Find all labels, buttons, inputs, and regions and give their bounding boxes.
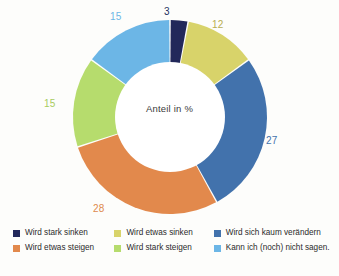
value-label-wird-etwas-steigen: 28: [93, 203, 105, 214]
legend-item-label: Kann ich (noch) nicht sagen.: [226, 243, 330, 253]
legend-column: Wird stark sinkenWird etwas steigen: [13, 228, 114, 253]
legend-column: Wird sich kaum verändernKann ich (noch) …: [214, 228, 339, 253]
legend-item[interactable]: Wird stark steigen: [114, 243, 213, 253]
donut-chart: Anteil in % 3 12 27 28 15 15: [0, 0, 339, 220]
value-label-wird-etwas-sinken: 12: [212, 19, 224, 30]
legend-swatch-icon: [13, 230, 20, 237]
legend-item[interactable]: Wird sich kaum verändern: [214, 228, 339, 238]
legend-swatch-icon: [13, 245, 20, 252]
legend-swatch-icon: [114, 230, 121, 237]
chart-legend: Wird stark sinkenWird etwas steigenWird …: [0, 228, 339, 272]
legend-swatch-icon: [214, 245, 221, 252]
legend-item-label: Wird stark steigen: [126, 243, 192, 253]
legend-item-label: Wird sich kaum verändern: [226, 228, 321, 238]
legend-item[interactable]: Wird etwas steigen: [13, 243, 114, 253]
legend-swatch-icon: [214, 230, 221, 237]
legend-item-label: Wird etwas sinken: [126, 228, 192, 238]
legend-item[interactable]: Wird stark sinken: [13, 228, 114, 238]
value-label-kann-ich-noch-nicht-sagen: 15: [110, 11, 122, 22]
value-label-wird-stark-sinken: 3: [164, 6, 170, 17]
legend-item-label: Wird etwas steigen: [25, 243, 94, 253]
legend-item-label: Wird stark sinken: [25, 228, 88, 238]
value-label-wird-sich-kaum-veraendern: 27: [266, 135, 278, 146]
donut-hole: [115, 62, 225, 172]
value-label-wird-stark-steigen: 15: [44, 98, 56, 109]
legend-column: Wird etwas sinkenWird stark steigen: [114, 228, 213, 253]
legend-swatch-icon: [114, 245, 121, 252]
legend-item[interactable]: Kann ich (noch) nicht sagen.: [214, 243, 339, 253]
legend-item[interactable]: Wird etwas sinken: [114, 228, 213, 238]
